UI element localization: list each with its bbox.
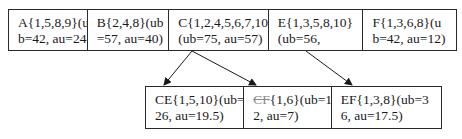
node-f-line1: F{1,3,6,8}(u [372,15,456,31]
node-f: F{1,3,6,8}(u b=42, au=12) [363,10,456,50]
node-a: A{1,5,8,9}(u b=42, au=24} [9,10,88,50]
edge-e-to-ef [306,51,352,85]
node-a-line2: b=42, au=24} [18,31,87,47]
node-cf-line2: 2, au=7) [253,108,330,124]
node-e: E{1,3,5,8,10} (ub=56, [269,10,364,50]
node-b-line2: =57, au=40) [97,31,169,47]
node-cf-line1: {1,6}(ub=1 [270,92,332,107]
node-b-line1: B{2,4,8}(ub [97,15,169,31]
node-ef-line1: {1,3,8}(ub=3 [357,92,429,107]
node-f-line2: b=42, au=12) [372,31,456,47]
node-ce-line2: 26, au=19.5) [155,108,243,124]
node-a-line1: A{1,5,8,9}(u [18,15,87,31]
node-ef-line2: 6, au=17.5) [341,108,441,124]
node-ce-line1: {1,5,10}(ub= [172,92,244,107]
node-c-line2: (ub=75, au=57) [178,31,268,47]
node-c: C{1,2,4,5,6,7,10} (ub=75, au=57) [169,10,269,50]
node-ce-name: CE [155,92,172,107]
node-ef-name: EF [341,92,357,107]
edge-c-to-cf [192,51,256,85]
node-ce: CE{1,5,10}(ub= 26, au=19.5) [146,87,244,128]
node-e-line1: E{1,3,5,8,10} [278,15,363,31]
node-e-line2: (ub=56, [278,31,363,47]
node-cf-name-struck: CF [253,92,270,107]
node-b: B{2,4,8}(ub =57, au=40) [88,10,170,50]
node-cf-pruned: CF{1,6}(ub=1 2, au=7) [244,87,331,128]
node-ef: EF{1,3,8}(ub=3 6, au=17.5) [332,87,441,128]
itemset-row-level-1: A{1,5,8,9}(u b=42, au=24} B{2,4,8}(ub =5… [8,9,457,51]
node-c-line1: C{1,2,4,5,6,7,10} [178,15,268,31]
itemset-row-level-2: CE{1,5,10}(ub= 26, au=19.5) CF{1,6}(ub=1… [145,86,442,129]
edge-c-to-ce [164,51,192,85]
